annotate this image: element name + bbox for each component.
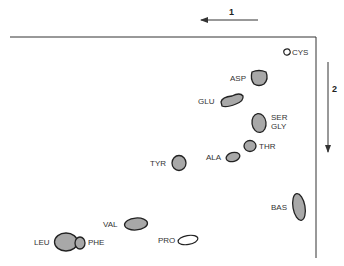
direction-2-label: 2 [332, 84, 337, 94]
spot-val: VAL [103, 217, 148, 231]
spot-bas: BAS [271, 193, 307, 222]
spot-pro: PRO [158, 234, 199, 246]
spot-thr: THR [244, 141, 276, 152]
spot-label-bas: BAS [271, 203, 287, 212]
spot-label-pro: PRO [158, 236, 175, 245]
spot-label-thr: THR [259, 142, 276, 151]
spot-label-glu: GLU [198, 97, 215, 106]
spot-label-tyr: TYR [150, 159, 166, 168]
spot-label-leu: LEU [34, 238, 50, 247]
spot-label-phe: PHE [88, 238, 104, 247]
spot-label-ser: SER [271, 113, 288, 122]
spot-ala: ALA [206, 151, 241, 163]
spot-label-ala: ALA [206, 153, 222, 162]
direction-2-arrow: 2 [328, 62, 337, 152]
spot-asp: ASP [230, 71, 267, 86]
spot-label-cys: CYS [292, 48, 308, 57]
spot-ser-gly: SER GLY [251, 113, 288, 134]
spot-label-asp: ASP [230, 74, 246, 83]
direction-1-label: 1 [229, 7, 234, 17]
spot-leu-phe: LEU PHE [34, 233, 104, 251]
direction-1-arrow: 1 [201, 7, 258, 20]
spot-label-val: VAL [103, 220, 118, 229]
spot-label-gly: GLY [271, 122, 287, 131]
chromatogram-diagram: 1 2 CYS ASP GLU SER GLY THR ALA [0, 0, 344, 266]
spot-tyr: TYR [150, 156, 186, 171]
spot-glu: GLU [198, 94, 243, 107]
spot-cys: CYS [283, 48, 308, 57]
